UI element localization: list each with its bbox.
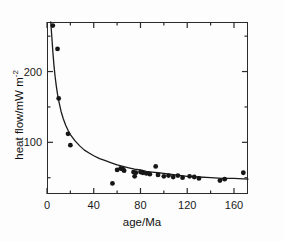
y-axis-title-exponent: -2	[11, 70, 20, 77]
x-tick-label: 160	[225, 199, 243, 211]
x-tick-label: 120	[178, 199, 196, 211]
x-axis-title-text: age/Ma	[123, 216, 161, 228]
y-axis-title: heat flow/mW m-2	[11, 45, 25, 185]
x-tick-label: 40	[88, 199, 100, 211]
x-tick-label: 80	[134, 199, 146, 211]
plot-frame	[47, 22, 248, 194]
x-tick-label: 0	[44, 199, 50, 211]
x-axis-title: age/Ma	[0, 216, 284, 228]
figure-canvas: 04080120160 100200 age/Ma heat flow/mW m…	[0, 0, 284, 241]
y-axis-title-text: heat flow/mW m	[13, 77, 25, 159]
